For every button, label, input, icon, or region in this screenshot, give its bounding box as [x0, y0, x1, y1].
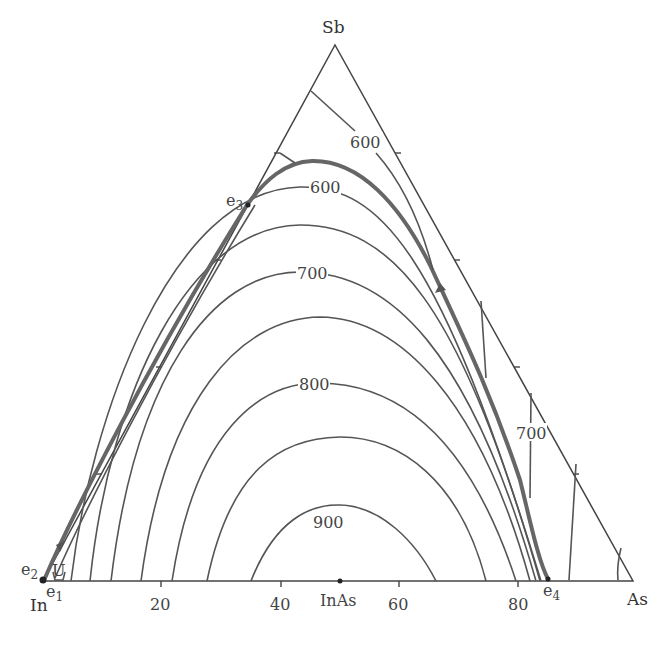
isotherm-sb-corner [311, 91, 355, 131]
label-e3: e3 [226, 191, 243, 213]
label-u: U [52, 561, 65, 580]
base-tick-60: 60 [388, 595, 408, 614]
univariant-line-e3-e4 [247, 161, 548, 579]
compound-label-inas: InAs [320, 591, 356, 610]
ternary-phase-diagram: Sb In As 20 40 60 80 InAs e1 e2 U e3 e4 … [0, 0, 670, 646]
isotherm-label-600-inner: 600 [310, 178, 341, 197]
base-tick-20: 20 [150, 595, 170, 614]
label-e1: e1 [46, 582, 63, 604]
e3-point [246, 203, 251, 208]
base-tick-80: 80 [508, 595, 528, 614]
isotherm-label-700: 700 [297, 264, 328, 283]
vertex-label-as: As [626, 589, 648, 609]
label-e4: e4 [543, 581, 560, 603]
isotherm-label-800: 800 [299, 375, 330, 394]
triangle-frame [43, 45, 633, 581]
isotherm-label-700-as-side: 700 [516, 424, 547, 443]
inas-point [338, 579, 343, 584]
isotherm-label-600-corner: 600 [350, 133, 381, 152]
isotherm-label-900: 900 [313, 513, 344, 532]
vertex-label-sb: Sb [322, 17, 345, 37]
label-e2: e2 [21, 560, 38, 582]
base-tick-40: 40 [270, 595, 290, 614]
